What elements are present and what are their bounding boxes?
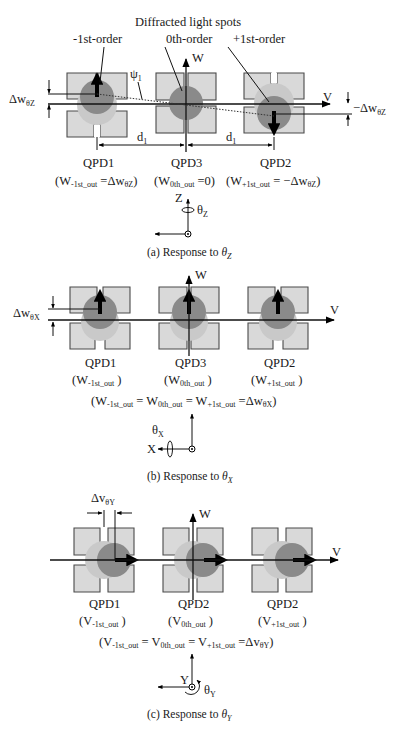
qpd2-name-b: QPD2 (264, 356, 295, 370)
caption-c: (c) Response to θY (147, 708, 233, 723)
qpd2-output-b: (W+1st_out ) (251, 373, 302, 388)
v-axis-label-c: V (332, 545, 341, 559)
svg-text:Y: Y (180, 673, 189, 687)
svg-text:θZ: θZ (197, 203, 208, 219)
qpd1-output: (W-1st_out =ΔwθZ) (55, 174, 137, 189)
equation-c: (V-1st_out = V0th_out = V+1st_out =ΔvθY) (99, 635, 273, 650)
panel-b: V W ΔwθX QPD1 QPD3 QPD2 (W-1st_out ) (W0… (13, 268, 339, 485)
svg-text:Z: Z (175, 191, 183, 205)
qpd-response-diagram: Diffracted light spots -1st-order 0th-or… (0, 0, 401, 731)
qpd1-output-b: (W-1st_out ) (72, 373, 122, 388)
svg-text:θX: θX (152, 423, 164, 439)
diffracted-spots-header: Diffracted light spots (135, 15, 241, 29)
qpd1-sensor (67, 73, 127, 137)
qpd1-name-c: QPD1 (89, 597, 120, 611)
qpd1-name: QPD1 (83, 156, 114, 170)
order-label-0: 0th-order (166, 32, 213, 46)
qpd2-name-c-right: QPD2 (267, 597, 298, 611)
delta-w-thetax-label: ΔwθX (13, 306, 40, 322)
qpd3-output: (W0th_out =0) (154, 174, 215, 189)
order-label-plus1: +1st-order (233, 32, 286, 46)
order-label-minus1: -1st-order (73, 32, 123, 46)
qpd3-output-b: (W0th_out ) (164, 373, 212, 388)
qpd2-sensor (244, 73, 304, 133)
minus-delta-w-thetaz-label: −ΔwθZ (353, 101, 386, 117)
psi-label: ψ1 (130, 67, 142, 83)
qpd2-output-c-right: (V+1st_out ) (258, 614, 307, 629)
coord-icon-z-rotation: Z θZ (155, 191, 208, 237)
qpd1-name-b: QPD1 (85, 356, 116, 370)
panel-c: V W ΔvθY QPD1 QPD2 QPD2 (V-1st_out ) (V0… (50, 491, 341, 723)
equation-b: (W-1st_out = W0th_out = W+1st_out =ΔwθX) (91, 394, 277, 409)
qpd2-name-c: QPD2 (178, 597, 209, 611)
qpd2-output: (W+1st_out = −ΔwθZ) (226, 174, 320, 189)
qpd3-name-b: QPD3 (175, 356, 206, 370)
v-axis-label: V (323, 90, 332, 104)
v-axis-label-b: V (330, 303, 339, 317)
distance-d1-left: d1 (137, 130, 147, 146)
qpd3-name: QPD3 (171, 156, 202, 170)
w-axis-label-c: W (199, 507, 211, 521)
qpd2-sensor-b (248, 287, 308, 349)
svg-text:X: X (147, 442, 156, 456)
caption-b: (b) Response to θX (147, 470, 234, 485)
qpd1-sensor-b (70, 287, 130, 349)
qpd2-name: QPD2 (260, 156, 291, 170)
svg-text:θY: θY (204, 683, 216, 699)
w-axis-label-b: W (195, 268, 207, 282)
coord-icon-x-rotation: X θX (147, 414, 195, 457)
distance-d1-right: d1 (226, 130, 236, 146)
qpd2-output-c: (V0th_out ) (168, 614, 213, 629)
w-axis-label: W (192, 51, 204, 65)
delta-w-thetaz-label: ΔwθZ (9, 92, 35, 108)
qpd1-output-c: (V-1st_out ) (79, 614, 126, 629)
caption-a: (a) Response to θZ (147, 246, 232, 261)
panel-a: Diffracted light spots -1st-order 0th-or… (9, 15, 386, 261)
coord-icon-y-rotation: Y θY (158, 654, 216, 699)
delta-v-thetay-label: ΔvθY (91, 491, 115, 507)
